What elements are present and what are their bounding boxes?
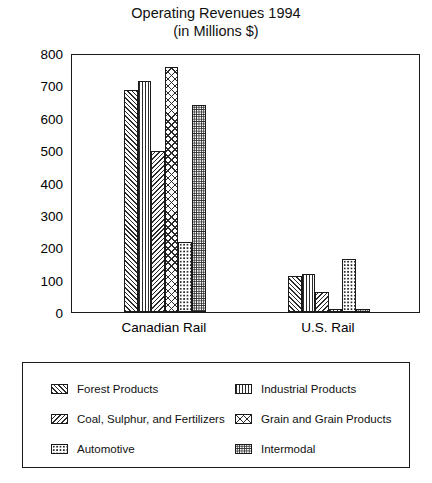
- chart-legend: Forest ProductsIndustrial ProductsCoal, …: [22, 362, 410, 468]
- legend-item-label: Automotive: [77, 443, 135, 455]
- bar-1-4: [165, 67, 179, 312]
- legend-item-2[interactable]: Industrial Products: [235, 379, 356, 399]
- legend-item-label: Forest Products: [77, 383, 158, 395]
- legend-item-3[interactable]: Coal, Sulphur, and Fertilizers: [51, 409, 225, 429]
- bar-2-6: [356, 309, 370, 312]
- chart-figure: Operating Revenues 1994 (in Millions $) …: [0, 0, 432, 483]
- bar-1-3: [151, 151, 165, 312]
- y-axis-tick-label: 700: [17, 80, 63, 93]
- plot-area: [71, 54, 420, 313]
- x-axis-label-2: U.S. Rail: [258, 321, 398, 335]
- bar-2-1: [288, 276, 302, 312]
- vertical-lines-swatch: [235, 384, 252, 394]
- y-axis-tick-label: 600: [17, 113, 63, 126]
- bar-2-4: [329, 309, 343, 312]
- bar-2-5: [342, 259, 356, 312]
- bar-2-2: [302, 274, 316, 312]
- legend-item-6[interactable]: Intermodal: [235, 439, 315, 459]
- y-axis-tick-label: 800: [17, 48, 63, 61]
- legend-item-1[interactable]: Forest Products: [51, 379, 158, 399]
- legend-item-4[interactable]: Grain and Grain Products: [235, 409, 391, 429]
- y-axis-tick-label: 300: [17, 210, 63, 223]
- legend-item-label: Industrial Products: [261, 383, 356, 395]
- legend-item-label: Coal, Sulphur, and Fertilizers: [77, 413, 225, 425]
- legend-item-5[interactable]: Automotive: [51, 439, 135, 459]
- legend-item-label: Grain and Grain Products: [261, 413, 391, 425]
- light-dots-swatch: [51, 444, 68, 454]
- dense-dots-swatch: [235, 444, 252, 454]
- y-axis-tick-label: 100: [17, 275, 63, 288]
- bar-1-1: [124, 90, 138, 312]
- y-axis-tick-label: 500: [17, 145, 63, 158]
- bar-1-6: [192, 105, 206, 312]
- bar-2-3: [315, 292, 329, 312]
- cross-hatch-swatch: [235, 414, 252, 424]
- bar-1-5: [178, 242, 192, 312]
- y-axis-tick-label: 200: [17, 242, 63, 255]
- legend-item-label: Intermodal: [261, 443, 315, 455]
- y-axis-tick-label: 0: [17, 307, 63, 320]
- y-axis-tick-label: 400: [17, 178, 63, 191]
- backward-diagonal-hatch-swatch: [51, 414, 68, 424]
- forward-diagonal-hatch-swatch: [51, 384, 68, 394]
- bar-1-2: [138, 81, 152, 312]
- x-axis-label-1: Canadian Rail: [94, 321, 234, 335]
